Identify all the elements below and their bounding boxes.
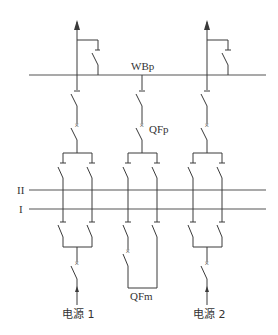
disconnector-icon	[201, 94, 207, 106]
svg-text:×: ×	[126, 247, 131, 256]
breaker-qfm-label: QFm	[130, 290, 153, 302]
svg-text:×: ×	[140, 121, 145, 130]
svg-text:×: ×	[75, 259, 80, 268]
main-wiring-diagram: WBp II I × ×	[0, 0, 278, 335]
svg-text:×: ×	[205, 259, 210, 268]
bus-II-label: II	[17, 184, 25, 196]
breaker-qfp-label: QFp	[149, 123, 169, 135]
disconnector-icon	[136, 94, 142, 106]
feeder-2: × × 电源 2	[188, 20, 231, 321]
feeder-1: × × 电源 1	[58, 20, 100, 321]
svg-text:×: ×	[75, 121, 80, 130]
bypass-disconnector-icon	[92, 53, 98, 65]
bus-I-label: I	[19, 203, 23, 215]
bypass-disconnector-icon	[222, 53, 228, 65]
source-1-label: 电源 1	[62, 307, 95, 321]
source-2-label: 电源 2	[193, 307, 226, 321]
transfer-coupler-bay: × QFp × QFm	[123, 75, 169, 302]
disconnector-icon	[71, 94, 77, 106]
transfer-bus-label: WBp	[131, 60, 155, 72]
svg-text:×: ×	[205, 121, 210, 130]
